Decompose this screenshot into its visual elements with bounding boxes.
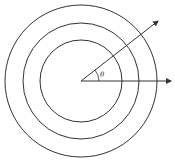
concentric-circles-diagram: [0, 0, 175, 163]
angle-arc: [95, 70, 99, 81]
angled-ray-arrow: [81, 21, 158, 81]
theta-label: θ: [100, 71, 104, 79]
